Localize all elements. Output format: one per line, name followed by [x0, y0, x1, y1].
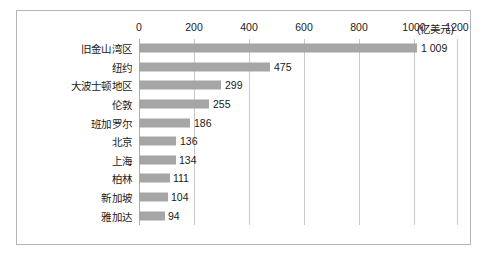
chart-plot-area: 0 200 400 600 800 1000 1200 (亿美元) 旧金山湾区 …	[17, 11, 472, 246]
bar-row: 班加罗尔 186	[17, 113, 472, 132]
bar-4	[139, 118, 190, 127]
bar-1	[139, 62, 270, 71]
category-label-2: 大波士顿地区	[71, 78, 132, 93]
bar-row: 旧金山湾区 1 009	[17, 39, 472, 58]
category-label-3: 伦敦	[112, 97, 132, 112]
category-label-8: 新加坡	[101, 190, 132, 205]
bar-row: 新加坡 104	[17, 188, 472, 207]
value-label-5: 136	[180, 135, 198, 147]
bar-3	[139, 100, 209, 109]
bar-row: 北京 136	[17, 132, 472, 151]
bar-6	[139, 155, 176, 164]
bar-8	[139, 193, 168, 202]
bar-row: 柏林 111	[17, 169, 472, 188]
bar-row: 雅加达 94	[17, 206, 472, 225]
chart-frame: 0 200 400 600 800 1000 1200 (亿美元) 旧金山湾区 …	[16, 10, 471, 245]
x-axis-tick-labels: 0 200 400 600 800 1000 1200 (亿美元)	[17, 21, 472, 37]
category-label-4: 班加罗尔	[91, 115, 132, 130]
bar-row: 上海 134	[17, 151, 472, 170]
category-label-0: 旧金山湾区	[81, 41, 132, 56]
category-label-9: 雅加达	[101, 208, 132, 223]
category-label-6: 上海	[112, 152, 132, 167]
category-label-7: 柏林	[112, 171, 132, 186]
value-label-1: 475	[274, 61, 292, 73]
x-tick-800: 800	[350, 21, 368, 33]
value-label-4: 186	[194, 117, 212, 129]
bar-row: 大波士顿地区 299	[17, 76, 472, 95]
bar-rows: 旧金山湾区 1 009 纽约 475 大波士顿地区 299 伦敦 255 班加罗	[17, 39, 472, 225]
bar-5	[139, 137, 176, 146]
bar-2	[139, 81, 221, 90]
unit-note: (亿美元)	[417, 21, 454, 36]
category-label-1: 纽约	[112, 59, 132, 74]
bar-0	[139, 44, 417, 53]
category-label-5: 北京	[112, 134, 132, 149]
x-tick-200: 200	[185, 21, 203, 33]
value-label-0: 1 009	[421, 42, 447, 54]
value-label-6: 134	[179, 154, 197, 166]
value-label-8: 104	[171, 191, 189, 203]
value-label-7: 111	[173, 172, 189, 184]
bar-7	[139, 174, 170, 183]
bar-row: 纽约 475	[17, 58, 472, 77]
x-tick-0: 0	[136, 21, 142, 33]
value-label-3: 255	[213, 98, 231, 110]
x-tick-600: 600	[295, 21, 313, 33]
bar-9	[139, 211, 165, 220]
bar-row: 伦敦 255	[17, 95, 472, 114]
value-label-9: 94	[168, 210, 180, 222]
value-label-2: 299	[225, 79, 243, 91]
x-tick-400: 400	[240, 21, 258, 33]
